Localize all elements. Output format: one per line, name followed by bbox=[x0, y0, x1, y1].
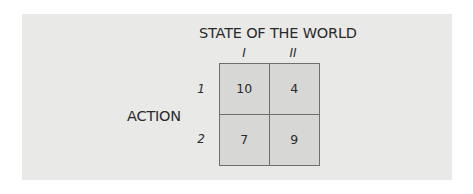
column-header-title: STATE OF THE WORLD bbox=[199, 25, 357, 41]
payoff-matrix: 10 4 7 9 bbox=[219, 63, 320, 166]
payoff-cell-1-i: 10 bbox=[220, 64, 270, 115]
payoff-cell-2-i: 7 bbox=[220, 115, 270, 166]
column-label-i: I bbox=[234, 46, 254, 60]
row-label-2: 2 bbox=[193, 132, 209, 146]
payoff-cell-1-ii: 4 bbox=[270, 64, 320, 115]
payoff-cell-2-ii: 9 bbox=[270, 115, 320, 166]
row-header-title: ACTION bbox=[127, 108, 181, 124]
column-label-ii: II bbox=[283, 46, 303, 60]
row-label-1: 1 bbox=[193, 82, 209, 96]
